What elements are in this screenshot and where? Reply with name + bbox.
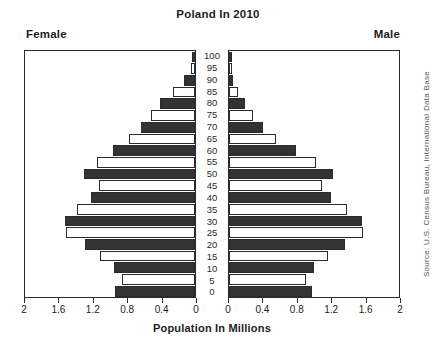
- chart-title: Poland In 2010: [0, 8, 436, 20]
- bar-row: [25, 215, 195, 227]
- male-bar-age-45: [229, 180, 322, 191]
- bar-row: [229, 262, 399, 274]
- male-bar-age-10: [229, 262, 314, 273]
- bar-row: [229, 98, 399, 110]
- bar-row: [25, 156, 195, 168]
- bar-row: [229, 274, 399, 286]
- male-panel-label: Male: [374, 28, 400, 40]
- age-tick-0: 0: [196, 286, 228, 298]
- age-tick-80: 80: [196, 97, 228, 109]
- x-tick-label-2: 2: [397, 304, 403, 315]
- x-tick-mark: [24, 298, 25, 303]
- female-bar-age-40: [91, 192, 195, 203]
- bar-row: [25, 203, 195, 215]
- female-bar-age-100: [192, 52, 195, 63]
- bar-row: [229, 121, 399, 133]
- male-bar-age-100: [229, 52, 232, 63]
- source-note: Source: U.S. Census Bureau, Internationa…: [418, 50, 434, 298]
- female-bar-age-0: [115, 286, 195, 297]
- female-bar-age-10: [114, 262, 195, 273]
- x-axis-caption: Population In Millions: [0, 322, 424, 334]
- bar-row: [229, 192, 399, 204]
- male-bar-age-90: [229, 75, 233, 86]
- age-tick-70: 70: [196, 121, 228, 133]
- x-axis-labels-female: 21.61.20.80.40: [24, 304, 196, 318]
- male-bar-age-50: [229, 169, 333, 180]
- female-bar-group: [25, 51, 195, 297]
- age-tick-60: 60: [196, 145, 228, 157]
- bar-row: [25, 168, 195, 180]
- x-tick-mark: [228, 298, 229, 303]
- age-tick-90: 90: [196, 74, 228, 86]
- x-tick-mark: [297, 298, 298, 303]
- x-tick-mark: [127, 298, 128, 303]
- bar-row: [25, 227, 195, 239]
- x-tick-label-1.6: 1.6: [359, 304, 373, 315]
- x-tick-mark: [196, 298, 197, 303]
- female-bar-age-5: [122, 274, 195, 285]
- male-bar-age-5: [229, 274, 306, 285]
- female-panel-label: Female: [26, 28, 67, 40]
- male-bar-age-20: [229, 239, 345, 250]
- x-tick-label-0.4: 0.4: [255, 304, 269, 315]
- age-tick-40: 40: [196, 192, 228, 204]
- bar-row: [25, 74, 195, 86]
- male-bar-age-0: [229, 286, 312, 297]
- x-tick-label-1.2: 1.2: [86, 304, 100, 315]
- x-tick-label-0.4: 0.4: [155, 304, 169, 315]
- bar-row: [229, 227, 399, 239]
- source-note-text: Source: U.S. Census Bureau, Internationa…: [422, 71, 431, 277]
- population-pyramid-chart: Poland In 2010 Female Male 1009590858075…: [0, 0, 436, 351]
- x-axis-ticks-male: [228, 298, 400, 303]
- x-tick-label-0: 0: [193, 304, 199, 315]
- x-axis-labels-male: 00.40.81.21.62: [228, 304, 400, 318]
- bar-row: [229, 145, 399, 157]
- female-bar-age-90: [184, 75, 195, 86]
- bar-row: [25, 274, 195, 286]
- bar-row: [25, 51, 195, 63]
- age-tick-95: 95: [196, 62, 228, 74]
- bar-row: [25, 180, 195, 192]
- female-bar-age-70: [141, 122, 195, 133]
- bar-row: [229, 156, 399, 168]
- female-bar-age-65: [129, 134, 195, 145]
- male-bar-group: [229, 51, 399, 297]
- bar-row: [25, 63, 195, 75]
- x-tick-mark: [58, 298, 59, 303]
- female-bar-age-95: [191, 63, 195, 74]
- male-bar-age-70: [229, 122, 263, 133]
- female-bar-age-55: [97, 157, 195, 168]
- bar-row: [25, 250, 195, 262]
- age-tick-55: 55: [196, 156, 228, 168]
- bar-row: [229, 250, 399, 262]
- bar-row: [229, 110, 399, 122]
- bar-row: [25, 192, 195, 204]
- x-tick-mark: [331, 298, 332, 303]
- bar-row: [25, 110, 195, 122]
- male-bar-age-40: [229, 192, 331, 203]
- bar-row: [25, 86, 195, 98]
- bar-row: [229, 51, 399, 63]
- x-tick-label-2: 2: [21, 304, 27, 315]
- male-bar-age-80: [229, 98, 245, 109]
- female-bar-age-50: [84, 169, 195, 180]
- bar-row: [25, 121, 195, 133]
- age-tick-65: 65: [196, 133, 228, 145]
- bar-row: [25, 262, 195, 274]
- age-tick-45: 45: [196, 180, 228, 192]
- bar-row: [229, 239, 399, 251]
- female-bar-age-80: [160, 98, 195, 109]
- age-tick-50: 50: [196, 168, 228, 180]
- female-bar-age-30: [65, 216, 195, 227]
- bar-row: [229, 63, 399, 75]
- x-tick-label-0: 0: [225, 304, 231, 315]
- bar-row: [229, 285, 399, 297]
- male-bar-age-30: [229, 216, 362, 227]
- bar-row: [229, 215, 399, 227]
- female-bar-age-60: [113, 145, 195, 156]
- bar-row: [25, 133, 195, 145]
- bar-row: [25, 285, 195, 297]
- age-tick-10: 10: [196, 263, 228, 275]
- male-bar-age-15: [229, 251, 328, 262]
- age-tick-75: 75: [196, 109, 228, 121]
